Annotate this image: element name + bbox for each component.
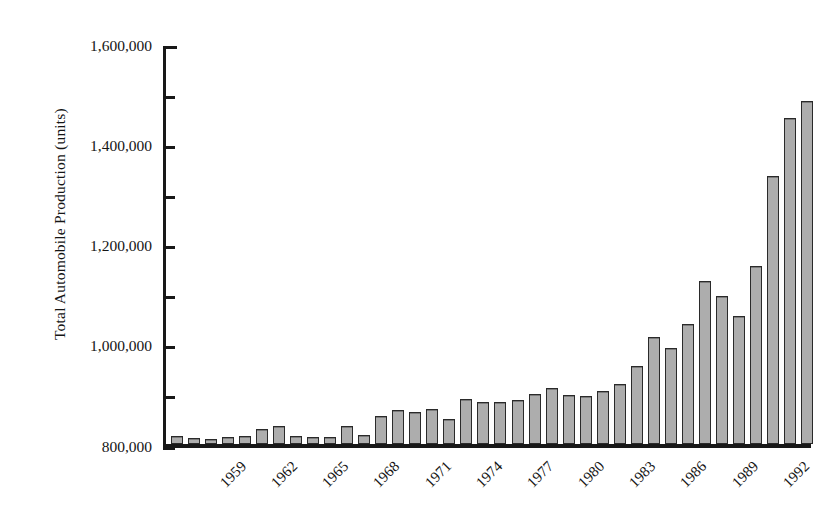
bar-slot — [577, 396, 594, 444]
bar — [477, 402, 489, 444]
bar — [341, 426, 353, 444]
bar-slot — [611, 384, 628, 444]
bar — [597, 391, 609, 444]
y-axis-tick-label: 1,200,000 — [90, 237, 152, 255]
x-axis-tick-label: 1977 — [524, 458, 557, 491]
bar — [767, 176, 779, 444]
x-axis-tick-label: 1968 — [370, 458, 403, 491]
bar-slot — [509, 400, 526, 444]
x-axis-tick-label: 1971 — [421, 458, 454, 491]
bar — [205, 439, 217, 445]
bar — [222, 437, 234, 444]
bar-slot — [662, 348, 679, 444]
x-axis-tick-label: 1989 — [728, 458, 761, 491]
bar-slot — [628, 366, 645, 444]
bar — [460, 399, 472, 444]
bar — [273, 426, 285, 444]
bar-slot — [390, 410, 407, 444]
y-axis-title: Total Automobile Production (units) — [51, 44, 69, 404]
x-axis-tick-label: 1980 — [575, 458, 608, 491]
bar — [443, 419, 455, 444]
bar — [784, 118, 796, 444]
bar — [699, 281, 711, 444]
bar-slot — [714, 296, 731, 444]
bar-slot — [782, 118, 799, 444]
bar — [631, 366, 643, 444]
bar — [171, 436, 183, 444]
bar — [614, 384, 626, 444]
bar-slot — [543, 388, 560, 444]
x-axis-labels: 1959196219651968197119741977198019831986… — [163, 452, 823, 511]
y-axis-tick: 0 — [163, 447, 175, 450]
bar — [801, 101, 813, 444]
bar — [392, 410, 404, 444]
bar — [733, 316, 745, 444]
bar-slot — [373, 416, 390, 444]
bar-slot — [731, 316, 748, 444]
bar — [256, 429, 268, 444]
bar-slot — [253, 429, 270, 444]
plot-area: 0200,000400,000600,000800,0001,000,0001,… — [163, 47, 811, 448]
x-axis-line — [163, 444, 811, 448]
bar-slot — [697, 281, 714, 444]
bar-slot — [594, 391, 611, 444]
x-axis-tick-label: 1962 — [268, 458, 301, 491]
y-axis-tick-label: 1,400,000 — [90, 136, 152, 154]
bar — [307, 437, 319, 444]
bar — [426, 409, 438, 444]
bar-slot — [458, 399, 475, 444]
y-axis-tick-label: 1,600,000 — [90, 36, 152, 54]
bar — [375, 416, 387, 444]
bar — [512, 400, 524, 444]
y-axis-tick-label: 1,000,000 — [90, 337, 152, 355]
bar-slot — [236, 436, 253, 444]
bar-slot — [424, 409, 441, 444]
bar-slot — [287, 436, 304, 444]
bar-slot — [185, 438, 202, 444]
bar — [529, 394, 541, 444]
bar-slot — [492, 402, 509, 444]
bar-slot — [202, 439, 219, 445]
bar — [358, 435, 370, 444]
bar-slot — [270, 426, 287, 444]
x-axis-tick-label: 1986 — [677, 458, 710, 491]
bar-slot — [321, 437, 338, 444]
bar-slot — [339, 426, 356, 444]
y-axis-tick-label: 800,000 — [102, 437, 152, 455]
bar-slot — [168, 436, 185, 444]
bar — [648, 337, 660, 444]
bar-slot — [407, 412, 424, 444]
bar-slot — [219, 437, 236, 444]
bar-slot — [680, 324, 697, 444]
bar — [716, 296, 728, 444]
x-axis-tick-label: 1959 — [217, 458, 250, 491]
bar — [290, 436, 302, 444]
x-axis-tick-label: 1965 — [319, 458, 352, 491]
bar-slot — [748, 266, 765, 444]
bar-slot — [645, 337, 662, 444]
bar-slot — [765, 176, 782, 444]
bar — [324, 437, 336, 444]
x-axis-tick-label: 1983 — [626, 458, 659, 491]
bar-slot — [441, 419, 458, 444]
bar — [580, 396, 592, 444]
bar — [546, 388, 558, 444]
bar-chart: Total Automobile Production (units) 0200… — [0, 0, 831, 511]
bar — [239, 436, 251, 444]
bar — [665, 348, 677, 444]
bar — [682, 324, 694, 444]
bar-slot — [356, 435, 373, 444]
bar-series — [166, 47, 811, 444]
bar — [409, 412, 421, 444]
bar — [188, 438, 200, 444]
bar-slot — [475, 402, 492, 444]
x-axis-tick-label: 1974 — [473, 458, 506, 491]
x-axis-tick-label: 1992 — [779, 458, 812, 491]
bar-slot — [304, 437, 321, 444]
bar — [563, 395, 575, 444]
bar-slot — [560, 395, 577, 444]
bar — [494, 402, 506, 444]
bar-slot — [799, 101, 816, 444]
bar-slot — [526, 394, 543, 444]
bar — [750, 266, 762, 444]
